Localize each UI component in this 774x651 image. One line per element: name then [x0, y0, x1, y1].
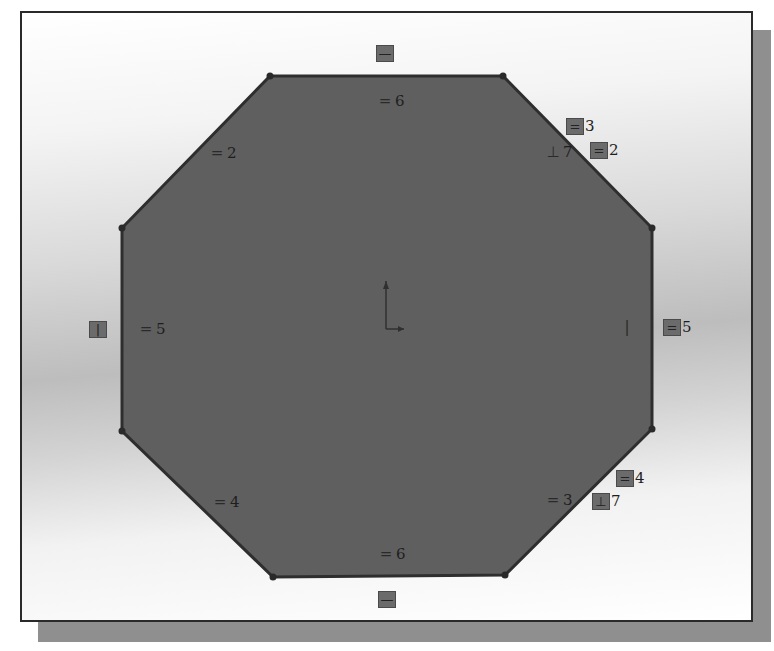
perpendicular-relation-icon: ⊥ — [592, 493, 610, 510]
relation-index: 3 — [585, 119, 595, 134]
relation-upper-left-equal[interactable]: =2 — [208, 145, 237, 162]
relation-index: 2 — [609, 143, 619, 158]
equal-relation-icon: = — [566, 118, 584, 135]
relation-right-equal[interactable]: =5 — [663, 319, 692, 336]
relation-upper-right-perp[interactable]: ⊥7 — [544, 144, 573, 161]
relation-lower-right-perp[interactable]: ⊥7 — [592, 493, 621, 510]
relation-upper-right-equal-3[interactable]: =3 — [566, 118, 595, 135]
equal-relation-icon: = — [616, 470, 634, 487]
horizontal-relation-icon: — — [376, 45, 394, 62]
sketch-viewport[interactable]: —=6=2=3⊥7=2|=5|=5=4=3⊥7=4=6— — [20, 11, 753, 622]
vertical-relation-icon: | — [618, 319, 636, 336]
equal-relation-icon: = — [208, 145, 226, 162]
relation-top-equal[interactable]: =6 — [376, 93, 405, 110]
relation-index: 4 — [635, 471, 645, 486]
relation-left-vertical[interactable]: | — [89, 321, 107, 338]
relation-bottom-equal[interactable]: =6 — [377, 546, 406, 563]
relation-lower-right-equal-3[interactable]: =3 — [544, 492, 573, 509]
relation-index: 6 — [396, 547, 406, 562]
relation-right-vertical[interactable]: | — [618, 319, 636, 336]
horizontal-relation-icon: — — [378, 591, 396, 608]
relation-index: 7 — [611, 494, 621, 509]
vertex-point[interactable] — [649, 225, 656, 232]
equal-relation-icon: = — [376, 93, 394, 110]
vertex-point[interactable] — [500, 73, 507, 80]
vertex-point[interactable] — [649, 426, 656, 433]
relation-index: 3 — [563, 493, 573, 508]
equal-relation-icon: = — [211, 494, 229, 511]
relation-bottom-horizontal[interactable]: — — [378, 591, 396, 608]
relation-index: 2 — [227, 146, 237, 161]
vertex-point[interactable] — [267, 73, 274, 80]
relation-top-horizontal[interactable]: — — [376, 45, 394, 62]
vertical-relation-icon: | — [89, 321, 107, 338]
relation-left-equal[interactable]: =5 — [137, 321, 166, 338]
relation-index: 6 — [395, 94, 405, 109]
relation-upper-right-equal-2[interactable]: =2 — [590, 142, 619, 159]
vertex-point[interactable] — [270, 574, 277, 581]
vertex-point[interactable] — [502, 572, 509, 579]
relation-lower-left-equal[interactable]: =4 — [211, 494, 240, 511]
perpendicular-relation-icon: ⊥ — [544, 144, 562, 161]
equal-relation-icon: = — [590, 142, 608, 159]
relation-index: 4 — [230, 495, 240, 510]
equal-relation-icon: = — [663, 319, 681, 336]
equal-relation-icon: = — [137, 321, 155, 338]
relation-index: 5 — [682, 320, 692, 335]
relation-index: 7 — [563, 145, 573, 160]
relation-lower-right-equal-4[interactable]: =4 — [616, 470, 645, 487]
vertex-point[interactable] — [119, 428, 126, 435]
vertex-point[interactable] — [119, 225, 126, 232]
relation-index: 5 — [156, 322, 166, 337]
equal-relation-icon: = — [544, 492, 562, 509]
equal-relation-icon: = — [377, 546, 395, 563]
